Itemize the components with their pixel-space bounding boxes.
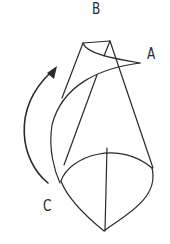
- label-b: B: [92, 2, 100, 17]
- inner-left-edge: [64, 75, 97, 165]
- top-edge: [83, 41, 110, 43]
- label-a: A: [147, 47, 155, 62]
- label-c: C: [43, 199, 51, 214]
- rotation-arrow-path: [24, 73, 50, 183]
- cone-diagram: B A C: [0, 0, 170, 244]
- inner-fold-line: [104, 41, 110, 56]
- base-center-line: [105, 148, 107, 231]
- base-lower-lobe: [61, 168, 153, 231]
- rotation-arrowhead-icon: [47, 66, 57, 79]
- cone-drawing: [0, 0, 170, 244]
